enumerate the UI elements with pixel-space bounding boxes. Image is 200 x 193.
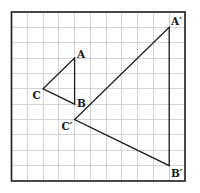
- label-c-prime: C′: [62, 120, 73, 132]
- label-b: B: [77, 97, 86, 109]
- label-a-prime: A′: [170, 15, 182, 27]
- label-b-prime: B′: [171, 167, 183, 179]
- label-a: A: [76, 48, 86, 60]
- label-c: C: [33, 89, 41, 101]
- dilation-diagram: A B C A′ B′ C′: [0, 0, 200, 193]
